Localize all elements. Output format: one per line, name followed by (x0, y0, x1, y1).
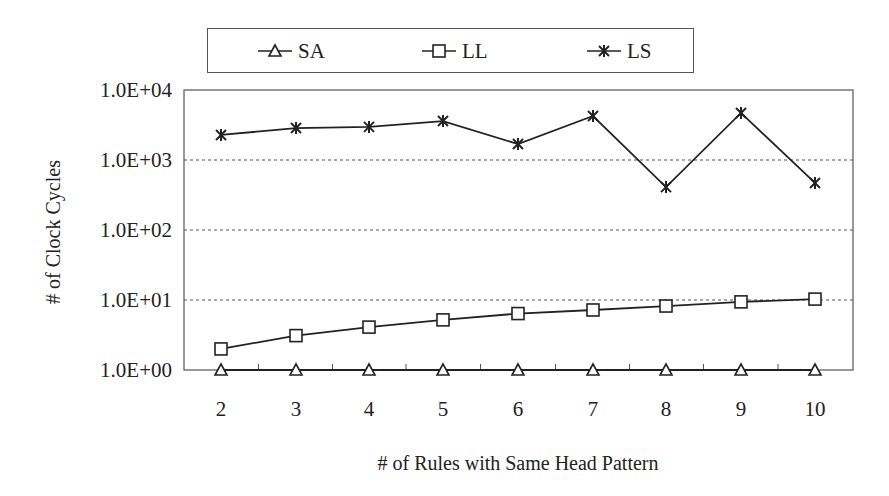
legend-item-sa: SA (258, 39, 326, 63)
square-marker (512, 308, 524, 320)
series-sa (215, 364, 821, 375)
square-marker (735, 296, 747, 308)
x-tick-label: 2 (216, 397, 227, 421)
series-line (221, 299, 815, 349)
y-tick-label: 1.0E+00 (100, 358, 172, 382)
legend-item-ll: LL (422, 39, 488, 63)
y-tick-label: 1.0E+04 (100, 78, 172, 102)
series-layer (215, 107, 821, 375)
legend-label: LL (462, 39, 488, 63)
asterisk-marker (513, 138, 523, 150)
x-axis-title: # of Rules with Same Head Pattern (377, 452, 658, 474)
x-tick-label: 8 (661, 397, 672, 421)
y-tick-label: 1.0E+03 (100, 148, 172, 172)
asterisk-marker (588, 110, 598, 122)
square-marker (809, 293, 821, 305)
grid-lines (184, 160, 853, 300)
y-tick-label: 1.0E+02 (100, 218, 172, 242)
legend-label: SA (298, 39, 326, 63)
line-chart: 1.0E+001.0E+011.0E+021.0E+031.0E+04 2345… (0, 0, 889, 496)
series-ll (215, 293, 821, 355)
y-tick-label: 1.0E+01 (100, 288, 172, 312)
y-axis-ticks: 1.0E+001.0E+011.0E+021.0E+031.0E+04 (100, 78, 172, 382)
x-tick-label: 10 (805, 397, 826, 421)
legend: SALLLS (258, 39, 652, 63)
square-marker (215, 343, 227, 355)
square-marker (660, 300, 672, 312)
x-tick-label: 4 (364, 397, 375, 421)
plot-frame (184, 90, 853, 370)
x-tick-label: 6 (513, 397, 524, 421)
asterisk-marker (810, 177, 820, 189)
x-tick-label: 9 (736, 397, 747, 421)
x-tick-label: 5 (438, 397, 449, 421)
x-tick-label: 3 (291, 397, 302, 421)
square-marker (363, 321, 375, 333)
x-tick-label: 7 (588, 397, 599, 421)
series-ls (216, 107, 820, 193)
square-marker (587, 304, 599, 316)
legend-item-ls: LS (587, 39, 652, 63)
legend-label: LS (627, 39, 652, 63)
square-marker (437, 314, 449, 326)
asterisk-marker (736, 107, 746, 119)
square-marker (433, 45, 445, 57)
y-axis-title: # of Clock Cycles (42, 160, 65, 304)
asterisk-marker (661, 181, 671, 193)
square-marker (290, 330, 302, 342)
